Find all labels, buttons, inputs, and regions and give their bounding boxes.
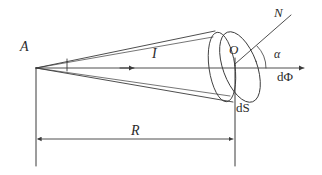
- label-normal-N: N: [274, 6, 283, 19]
- label-center-O: O: [229, 43, 238, 56]
- cone-inner-upper-edge: [36, 37, 213, 68]
- cone-upper-edge: [36, 31, 215, 68]
- cone-inner-lower-edge: [36, 68, 230, 96]
- label-intensity-I: I: [152, 47, 157, 61]
- label-area-element-ds: dS: [236, 101, 250, 114]
- label-flux-dphi: dΦ: [277, 70, 293, 83]
- label-angle-alpha: α: [274, 48, 280, 60]
- label-distance-R: R: [131, 124, 140, 138]
- figure-container: A I O N α dΦ dS R: [0, 0, 322, 175]
- label-apex-A: A: [20, 40, 29, 54]
- diagram-canvas: [0, 0, 322, 175]
- cone-lower-edge: [36, 68, 233, 102]
- angle-alpha-arc: [257, 46, 266, 68]
- surface-element-ellipse: [211, 26, 268, 107]
